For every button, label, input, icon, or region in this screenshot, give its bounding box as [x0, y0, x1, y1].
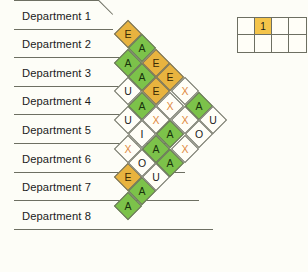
legend-grid: 1 [237, 17, 307, 53]
legend-cell[interactable] [255, 35, 272, 52]
apex-diagonal-rule [98, 0, 113, 15]
department-label: Department 4 [22, 95, 91, 107]
legend-cell[interactable] [238, 18, 255, 35]
department-label: Department 7 [22, 181, 91, 193]
department-label: Department 1 [22, 10, 91, 22]
legend-cell[interactable] [289, 35, 306, 52]
department-rule [14, 29, 113, 30]
top-lead-rule [14, 0, 99, 1]
department-rule [14, 200, 199, 201]
department-label: Department 3 [22, 67, 91, 79]
relationship-code: U [204, 111, 222, 129]
department-label: Department 2 [22, 38, 91, 50]
department-label: Department 6 [22, 153, 91, 165]
legend-cell[interactable] [238, 35, 255, 52]
rel-chart-page: Department 1Department 2Department 3Depa… [0, 0, 308, 272]
department-label: Department 5 [22, 124, 91, 136]
department-rule [14, 57, 128, 58]
legend-cell[interactable] [272, 18, 289, 35]
department-rule [14, 229, 213, 230]
legend-cell[interactable] [289, 18, 306, 35]
legend-cell-highlighted[interactable]: 1 [255, 18, 272, 35]
legend-cell[interactable] [272, 35, 289, 52]
department-label: Department 8 [22, 210, 91, 222]
